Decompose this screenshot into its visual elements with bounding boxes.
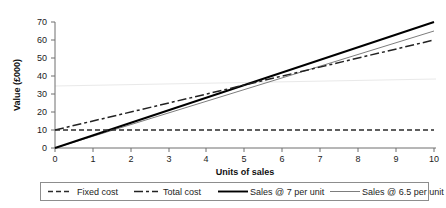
x-tick-label-1: 1	[90, 154, 95, 164]
x-tick-label-7: 7	[317, 154, 322, 164]
legend-item-sales-6-5-per-unit[interactable]: Sales @ 6.5 per unit	[330, 187, 444, 197]
y-tick-label-10: 10	[37, 125, 47, 135]
x-tick-label-10: 10	[429, 154, 439, 164]
y-axis-title: Value (£000)	[12, 59, 22, 111]
x-tick-label-0: 0	[52, 154, 57, 164]
x-axis-title: Units of sales	[216, 167, 275, 177]
y-tick-label-60: 60	[37, 35, 47, 45]
breakeven-chart: 70 60 50 40 30 20 10 0 Value (£000) 0	[0, 0, 446, 208]
x-tick-label-4: 4	[203, 154, 208, 164]
legend-label-total-cost: Total cost	[163, 187, 202, 197]
legend-label-sales-6-5-per-unit: Sales @ 6.5 per unit	[362, 187, 444, 197]
x-tick-label-2: 2	[128, 154, 133, 164]
y-tick-label-50: 50	[37, 53, 47, 63]
y-tick-label-30: 30	[37, 89, 47, 99]
x-tick-label-9: 9	[393, 154, 398, 164]
y-axis: 70 60 50 40 30 20 10 0 Value (£000)	[12, 17, 55, 153]
x-tick-label-8: 8	[355, 154, 360, 164]
y-tick-label-70: 70	[37, 17, 47, 27]
legend-item-sales-7-per-unit[interactable]: Sales @ 7 per unit	[218, 187, 325, 197]
legend-label-sales-7-per-unit: Sales @ 7 per unit	[250, 187, 325, 197]
y-tick-label-40: 40	[37, 71, 47, 81]
x-tick-label-5: 5	[241, 154, 246, 164]
y-tick-label-20: 20	[37, 107, 47, 117]
x-tick-label-3: 3	[166, 154, 171, 164]
chart-canvas: 70 60 50 40 30 20 10 0 Value (£000) 0	[0, 0, 446, 208]
legend-label-fixed-cost: Fixed cost	[77, 187, 119, 197]
chart-legend: Fixed cost Total cost Sales @ 7 per unit…	[41, 183, 445, 201]
x-tick-label-6: 6	[279, 154, 284, 164]
legend-item-total-cost[interactable]: Total cost	[134, 187, 202, 197]
y-tick-label-0: 0	[42, 143, 47, 153]
x-axis: 0 1 2 3 4 5 6 7 8 9 10 Units of sales	[52, 148, 439, 177]
legend-item-fixed-cost[interactable]: Fixed cost	[48, 187, 119, 197]
